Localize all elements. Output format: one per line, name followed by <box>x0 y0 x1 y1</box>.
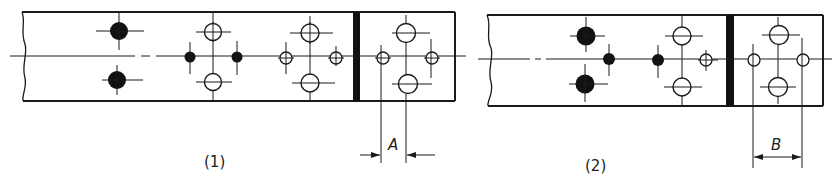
diagram-canvas <box>0 0 838 191</box>
dimension-b-label: B <box>771 136 781 154</box>
figure-1-caption: (1) <box>204 153 225 171</box>
dimension-a-label: A <box>388 136 398 154</box>
figure-2-caption: (2) <box>585 157 606 175</box>
